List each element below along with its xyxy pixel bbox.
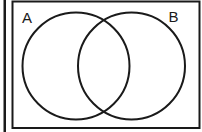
set-b-label: B [169, 8, 179, 25]
set-a-circle [23, 13, 130, 120]
left-border-line [4, 0, 7, 132]
set-b-circle [78, 13, 185, 120]
set-a-label: A [22, 9, 32, 26]
venn-diagram: A B [0, 0, 202, 132]
